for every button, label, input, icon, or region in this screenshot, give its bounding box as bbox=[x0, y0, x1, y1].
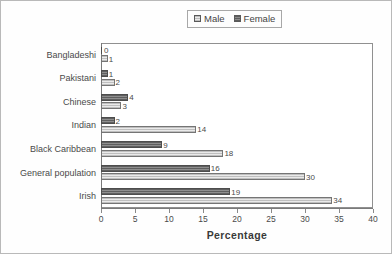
x-tick-label: 30 bbox=[300, 214, 309, 224]
bar-value-label: 34 bbox=[333, 196, 342, 205]
x-tick-label: 5 bbox=[133, 214, 138, 224]
category-label: Pakistani bbox=[59, 73, 96, 83]
legend-item-male: Male bbox=[194, 13, 225, 24]
x-tick-label: 25 bbox=[266, 214, 275, 224]
bar-male: 34 bbox=[101, 197, 332, 204]
bar-female: 4 bbox=[101, 94, 128, 101]
bar-value-label: 30 bbox=[306, 172, 315, 181]
x-tick bbox=[237, 209, 238, 213]
bar-female: 16 bbox=[101, 165, 210, 172]
x-tick bbox=[305, 209, 306, 213]
x-axis-title: Percentage bbox=[101, 229, 373, 241]
chart-row: Bangladeshi01 bbox=[101, 43, 373, 67]
x-tick bbox=[373, 209, 374, 213]
chart-row: Chinese43 bbox=[101, 90, 373, 114]
bar-female: 0 bbox=[101, 47, 102, 54]
x-tick-label: 15 bbox=[198, 214, 207, 224]
bar-value-label: 18 bbox=[224, 149, 233, 158]
x-tick-label: 0 bbox=[99, 214, 104, 224]
x-tick-label: 40 bbox=[368, 214, 377, 224]
bar-male: 3 bbox=[101, 102, 121, 109]
category-label: Bangladeshi bbox=[46, 50, 96, 60]
bar-value-label: 2 bbox=[116, 78, 120, 87]
bar-value-label: 0 bbox=[104, 46, 108, 55]
chart-figure: Male Female Bangladeshi01Pakistani12Chin… bbox=[0, 0, 392, 254]
bar-value-label: 16 bbox=[211, 164, 220, 173]
legend-label-female: Female bbox=[244, 13, 276, 24]
legend-swatch-female-icon bbox=[234, 15, 241, 22]
chart-row: Indian214 bbox=[101, 114, 373, 138]
x-tick bbox=[203, 209, 204, 213]
bar-male: 14 bbox=[101, 126, 196, 133]
bar-value-label: 3 bbox=[122, 101, 126, 110]
bar-male: 1 bbox=[101, 55, 108, 62]
legend-swatch-male-icon bbox=[194, 15, 201, 22]
x-tick bbox=[101, 209, 102, 213]
category-label: General population bbox=[20, 168, 96, 178]
bar-value-label: 4 bbox=[129, 93, 133, 102]
bar-value-label: 14 bbox=[197, 125, 206, 134]
chart-row: General population1630 bbox=[101, 161, 373, 185]
bar-female: 2 bbox=[101, 117, 115, 124]
x-tick-label: 35 bbox=[334, 214, 343, 224]
bar-female: 19 bbox=[101, 188, 230, 195]
bar-male: 18 bbox=[101, 150, 223, 157]
x-tick-label: 20 bbox=[232, 214, 241, 224]
legend-item-female: Female bbox=[234, 13, 276, 24]
x-tick bbox=[135, 209, 136, 213]
chart-row: Black Caribbean918 bbox=[101, 137, 373, 161]
bar-value-label: 1 bbox=[109, 54, 113, 63]
legend-label-male: Male bbox=[204, 13, 225, 24]
bar-female: 9 bbox=[101, 141, 162, 148]
bar-female: 1 bbox=[101, 70, 108, 77]
bar-value-label: 9 bbox=[163, 140, 167, 149]
x-tick bbox=[339, 209, 340, 213]
x-tick-label: 10 bbox=[164, 214, 173, 224]
x-tick bbox=[271, 209, 272, 213]
category-label: Indian bbox=[71, 120, 96, 130]
chart-row: Pakistani12 bbox=[101, 67, 373, 91]
chart-legend: Male Female bbox=[187, 10, 282, 28]
category-label: Irish bbox=[79, 191, 96, 201]
chart-row: Irish1934 bbox=[101, 184, 373, 208]
bar-value-label: 2 bbox=[116, 116, 120, 125]
bar-male: 30 bbox=[101, 173, 305, 180]
x-tick bbox=[169, 209, 170, 213]
bar-value-label: 1 bbox=[109, 69, 113, 78]
category-label: Black Caribbean bbox=[30, 144, 96, 154]
bar-value-label: 19 bbox=[231, 187, 240, 196]
category-label: Chinese bbox=[63, 97, 96, 107]
bar-male: 2 bbox=[101, 79, 115, 86]
